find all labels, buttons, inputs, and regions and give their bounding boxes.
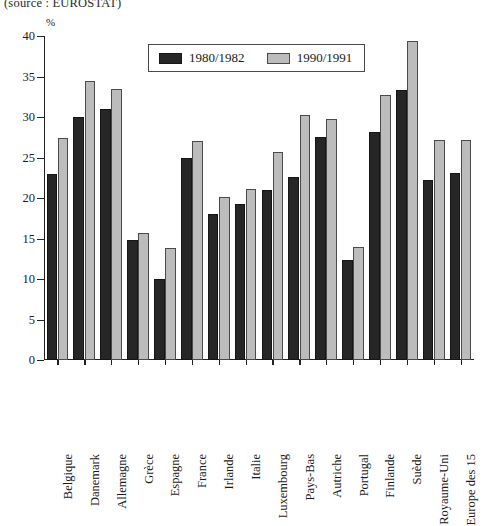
bar: [326, 119, 337, 360]
bar: [353, 247, 364, 360]
x-axis-tick: [246, 360, 247, 365]
bar: [315, 137, 326, 360]
bar-group: [286, 36, 313, 360]
y-axis-tick-label: 25: [23, 150, 36, 165]
y-axis-tick: [37, 320, 44, 321]
bar: [450, 173, 461, 360]
bar: [219, 197, 230, 360]
bar-group: [420, 36, 447, 360]
bar-group: [259, 36, 286, 360]
x-axis-category-label: Europe des 15: [465, 454, 478, 526]
x-axis-category-label: Irlande: [223, 454, 236, 489]
y-axis-tick-label: 0: [29, 353, 35, 368]
bar: [111, 89, 122, 360]
bar: [423, 180, 434, 360]
legend-swatch-1990: [267, 53, 290, 64]
y-axis-tick: [37, 158, 44, 159]
x-axis-category-label: Espagne: [169, 454, 182, 496]
bar-group: [98, 36, 125, 360]
bar: [208, 214, 219, 360]
bar: [300, 115, 311, 360]
x-axis-tick: [299, 360, 300, 365]
plot-area: 0510152025303540: [44, 36, 474, 360]
x-axis-category-label: Luxembourg: [277, 454, 290, 518]
bar-group: [178, 36, 205, 360]
bar: [192, 141, 203, 360]
bar-group: [205, 36, 232, 360]
y-axis-tick: [37, 239, 44, 240]
x-axis-tick: [434, 360, 435, 365]
y-axis-tick: [37, 117, 44, 118]
legend-label: 1980/1982: [189, 50, 245, 66]
x-axis-tick: [138, 360, 139, 365]
y-axis-tick-label: 35: [23, 69, 36, 84]
x-axis-category-label: Allemagne: [116, 454, 129, 509]
bar-group: [393, 36, 420, 360]
bar: [154, 279, 165, 360]
x-axis-category-label: Royaume-Uni: [438, 454, 451, 525]
bar-group: [447, 36, 474, 360]
x-axis-category-label: France: [196, 454, 209, 488]
y-axis-tick: [37, 77, 44, 78]
x-axis-category-label: Grèce: [143, 454, 156, 484]
y-axis-tick: [37, 36, 44, 37]
x-axis-tick: [165, 360, 166, 365]
x-axis-tick: [57, 360, 58, 365]
y-axis-tick-label: 15: [23, 231, 36, 246]
bar: [138, 233, 149, 360]
bar: [181, 158, 192, 361]
x-axis-tick: [272, 360, 273, 365]
x-axis-labels: BelgiqueDanemarkAllemagneGrèceEspagneFra…: [44, 368, 474, 457]
y-axis-tick: [37, 279, 44, 280]
legend-label: 1990/1991: [297, 50, 353, 66]
bar-group: [152, 36, 179, 360]
x-axis-category-label: Pays-Bas: [304, 454, 317, 501]
x-axis-category-label: Belgique: [62, 454, 75, 499]
x-axis-tick: [380, 360, 381, 365]
bar: [369, 132, 380, 360]
y-axis-tick-label: 5: [29, 312, 35, 327]
bar-group: [340, 36, 367, 360]
x-axis-tick: [461, 360, 462, 365]
x-axis-tick: [219, 360, 220, 365]
x-axis-tick: [326, 360, 327, 365]
x-axis-tick: [111, 360, 112, 365]
bar-group: [71, 36, 98, 360]
y-axis-unit-label: %: [46, 16, 55, 28]
bar: [434, 140, 445, 360]
x-axis-tick: [192, 360, 193, 365]
y-axis-tick: [37, 198, 44, 199]
y-axis-tick-label: 30: [23, 110, 36, 125]
bar: [380, 95, 391, 360]
bar-group: [232, 36, 259, 360]
x-axis-category-label: Danemark: [89, 454, 102, 506]
source-caption: (source : EUROSTAT): [4, 0, 121, 11]
x-axis-category-label: Italie: [250, 454, 263, 480]
legend-swatch-1980: [159, 53, 182, 64]
bar: [396, 90, 407, 360]
bar: [235, 204, 246, 360]
y-axis-tick: [37, 360, 44, 361]
x-axis-category-label: Portugal: [358, 454, 371, 496]
x-axis-tick: [353, 360, 354, 365]
bar-group: [44, 36, 71, 360]
bar-group: [125, 36, 152, 360]
x-axis-category-label: Suède: [411, 454, 424, 485]
chart-legend: 1980/19821990/1991: [148, 44, 365, 72]
bar: [288, 177, 299, 360]
bar: [461, 140, 472, 360]
x-axis-category-label: Finlande: [384, 454, 397, 498]
bar: [342, 260, 353, 360]
bar: [165, 248, 176, 360]
y-axis-tick-label: 20: [23, 191, 36, 206]
bar: [262, 190, 273, 360]
bar: [85, 81, 96, 360]
bar: [100, 109, 111, 360]
x-axis-category-label: Autriche: [331, 454, 344, 498]
bar: [246, 189, 257, 360]
bar: [47, 174, 58, 360]
bar-group: [367, 36, 394, 360]
x-axis-tick: [84, 360, 85, 365]
legend-entry: 1990/1991: [267, 50, 353, 66]
bar: [73, 117, 84, 360]
